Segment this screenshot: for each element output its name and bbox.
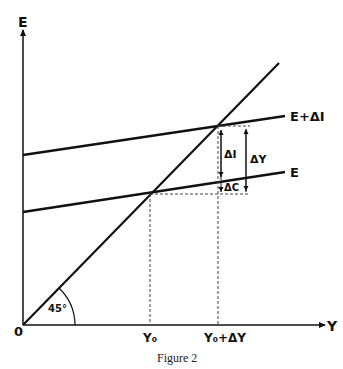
angle-label: 45°: [48, 303, 67, 314]
y1-tick-label: Y₀+ΔY: [203, 331, 246, 345]
delta-c-label: ΔC: [224, 182, 239, 193]
y-axis-label: E: [18, 14, 28, 30]
x-axis-label: Y: [326, 318, 338, 334]
delta-y-label: ΔY: [250, 153, 268, 166]
keynesian-cross-diagram: E Y 0 45° E+ΔI E ΔI ΔY ΔC Y₀ Y₀+ΔY Figur…: [0, 0, 343, 369]
upper-line-label: E+ΔI: [290, 109, 325, 124]
lower-line-label: E: [290, 165, 299, 180]
y0-tick-label: Y₀: [142, 331, 157, 345]
delta-i-label: ΔI: [224, 148, 237, 161]
origin-label: 0: [14, 324, 23, 339]
figure-caption: Figure 2: [157, 351, 197, 365]
